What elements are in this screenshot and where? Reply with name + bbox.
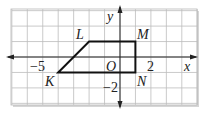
y-axis-label: y [105, 9, 114, 24]
vertex-label-n: N [136, 74, 147, 89]
tick-label-x-2: 2 [147, 59, 154, 74]
tick-label-x-neg5: −5 [30, 59, 45, 74]
vertex-label-l: L [75, 27, 84, 42]
x-axis-arrow-left-icon [6, 55, 14, 60]
vertex-label-m: M [136, 27, 150, 42]
coordinate-plane-figure: y x O −5 2 −2 K L M N [0, 0, 206, 113]
origin-label: O [106, 59, 116, 74]
tick-label-y-neg2: −2 [103, 80, 118, 95]
vertex-label-k: K [44, 74, 55, 89]
x-axis-label: x [183, 59, 191, 74]
